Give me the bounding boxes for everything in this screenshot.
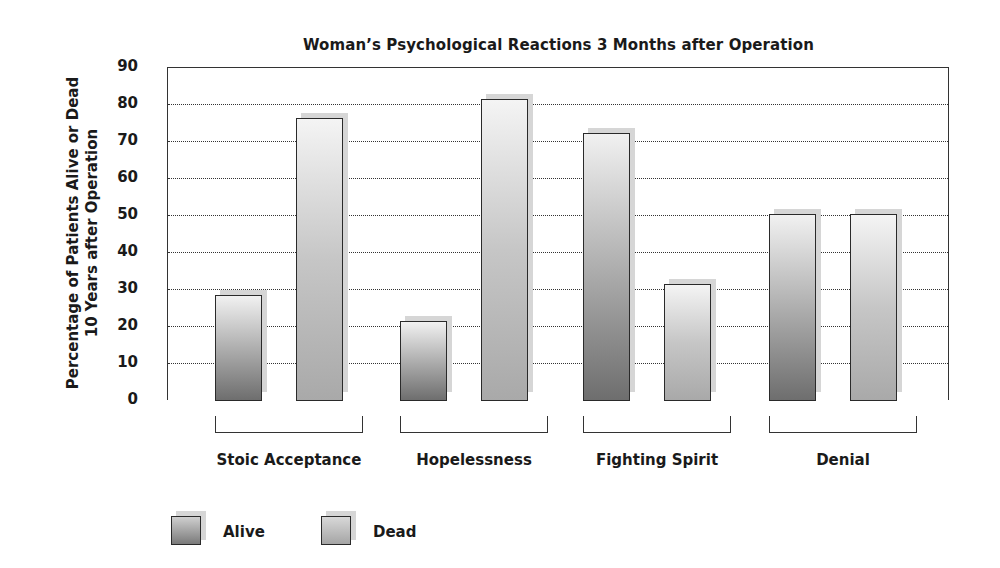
y-tick-label: 50: [98, 205, 138, 223]
y-tick-label: 90: [98, 57, 138, 75]
category-label: Fighting Spirit: [596, 451, 718, 469]
y-tick-label: 0: [98, 390, 138, 408]
bar-dead: [850, 214, 897, 401]
bar-dead: [481, 99, 528, 401]
y-tick-label: 70: [98, 131, 138, 149]
y-axis-label: Percentage of Patients Alive or Dead 10 …: [64, 63, 104, 403]
category-label: Denial: [816, 451, 870, 469]
bar-dead: [664, 284, 711, 401]
y-tick-label: 40: [98, 242, 138, 260]
category-bracket: [215, 416, 363, 433]
gridline: [168, 326, 948, 327]
legend-label-dead: Dead: [373, 523, 416, 541]
bar-alive: [400, 321, 447, 401]
legend-swatch-alive: [171, 516, 201, 545]
gridline: [168, 104, 948, 105]
category-label: Hopelessness: [416, 451, 532, 469]
gridline: [168, 178, 948, 179]
legend-swatch-dead: [321, 516, 351, 545]
category-label: Stoic Acceptance: [217, 451, 362, 469]
y-axis-label-line1: Percentage of Patients Alive or Dead: [64, 63, 83, 403]
y-tick-label: 30: [98, 279, 138, 297]
chart-title: Woman’s Psychological Reactions 3 Months…: [167, 36, 950, 54]
y-tick-label: 10: [98, 353, 138, 371]
y-axis-label-line2: 10 Years after Operation: [83, 63, 102, 403]
y-tick-label: 20: [98, 316, 138, 334]
bar-dead: [296, 118, 343, 401]
gridline: [168, 252, 948, 253]
gridline: [168, 215, 948, 216]
y-tick-label: 80: [98, 94, 138, 112]
legend-label-alive: Alive: [223, 523, 265, 541]
gridline: [168, 289, 948, 290]
gridline: [168, 141, 948, 142]
bar-alive: [215, 295, 262, 401]
category-bracket: [583, 416, 731, 433]
plot-area: [167, 67, 949, 400]
category-bracket: [400, 416, 548, 433]
y-tick-label: 60: [98, 168, 138, 186]
gridline: [168, 363, 948, 364]
bar-alive: [769, 214, 816, 401]
category-bracket: [769, 416, 917, 433]
bar-alive: [583, 133, 630, 401]
